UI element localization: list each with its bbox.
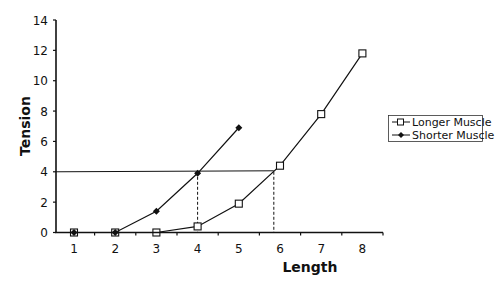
x-tick-label: 6 <box>276 242 284 256</box>
x-tick-label: 3 <box>153 242 161 256</box>
open-square-marker-icon <box>318 111 325 118</box>
open-square-marker-icon <box>235 200 242 207</box>
x-tick-label: 1 <box>70 242 78 256</box>
open-square-marker-icon <box>277 162 284 169</box>
x-tick-label: 7 <box>317 242 325 256</box>
y-axis-label: Tension <box>17 96 33 156</box>
x-tick-label: 5 <box>235 242 243 256</box>
open-square-marker-icon <box>398 119 404 125</box>
y-tick-label: 6 <box>40 135 48 149</box>
series <box>71 50 366 236</box>
open-square-marker-icon <box>359 50 366 57</box>
y-tick-label: 4 <box>40 165 48 179</box>
y-tick-label: 0 <box>40 226 48 240</box>
y-tick-label: 10 <box>33 74 48 88</box>
legend-label: Longer Muscle <box>412 116 492 129</box>
y-tick-label: 8 <box>40 105 48 119</box>
y-axis-ticks: 02468101214 <box>33 14 56 241</box>
y-tick-label: 12 <box>33 44 48 58</box>
y-tick-label: 2 <box>40 196 48 210</box>
y-tick-label: 14 <box>33 14 48 28</box>
legend: Longer Muscle Shorter Muscle <box>389 116 495 143</box>
legend-label: Shorter Muscle <box>412 129 495 142</box>
reference-line-horizontal <box>56 171 274 172</box>
line-chart: 02468101214 12345678 Length Tension Long… <box>0 0 499 286</box>
open-square-marker-icon <box>194 223 201 230</box>
x-axis-label: Length <box>282 259 337 275</box>
x-tick-label: 4 <box>194 242 202 256</box>
series-line-longer-muscle <box>74 53 362 232</box>
x-tick-label: 2 <box>111 242 119 256</box>
x-tick-label: 8 <box>359 242 367 256</box>
